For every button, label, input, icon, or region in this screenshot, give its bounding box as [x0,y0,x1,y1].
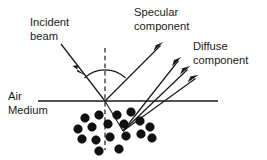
diagram-canvas: Incident beam Specular component Diffuse… [0,0,267,160]
particle [92,136,101,145]
particle [95,111,104,120]
reflection-diagram: Incident beam Specular component Diffuse… [0,0,267,160]
particle [113,111,122,120]
diffuse-component-ray-2 [123,70,188,132]
specular-component-label-line2: component [134,20,190,32]
particle [148,134,157,143]
medium-label: Medium [8,104,48,116]
incident-beam-label-line1: Incident [30,16,70,28]
particle-cluster [74,108,157,156]
particle [74,125,83,134]
particle [136,117,145,126]
particle [122,132,131,141]
particle [127,108,136,117]
diffuse-component-ray-3 [123,79,196,132]
particle [78,135,87,144]
specular-component-ray [105,46,161,102]
diffuse-component-label-line1: Diffuse [193,40,228,52]
incident-beam-label-line2: beam [30,30,58,42]
air-label: Air [8,90,22,102]
particle [88,123,97,132]
diffuse-component-label-line2: component [193,54,249,66]
particle [104,120,113,129]
particle [106,133,115,142]
particle [146,123,155,132]
particle [95,147,104,156]
diffuse-component-ray-1 [123,61,179,132]
particle [81,114,90,123]
specular-component-label-line1: Specular [134,6,178,18]
particle [137,130,146,139]
particle [120,120,129,129]
particle [115,145,124,154]
incident-beam-ray [61,44,105,101]
